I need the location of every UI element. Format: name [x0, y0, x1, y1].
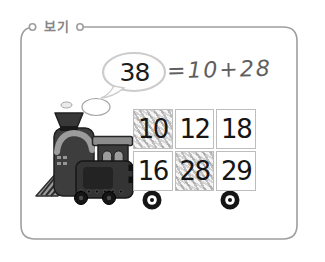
- example-frame-label: 보기: [39, 19, 75, 35]
- number-wagon-grid: 10 12 18 16 28 29: [133, 109, 256, 191]
- example-box: 보기 38 =10+28 10 12 18 16 28 29: [0, 0, 325, 262]
- steam-train-icon: [36, 113, 138, 205]
- frame-ring-right-icon: [77, 24, 83, 30]
- number-cell-28: 28: [175, 151, 215, 191]
- number-cell-10: 10: [133, 109, 173, 149]
- bubble-value: 38: [104, 58, 165, 87]
- number-cell-18: 18: [216, 109, 256, 149]
- number-cell-12: 12: [175, 109, 215, 149]
- frame-ring-left-icon: [29, 24, 35, 30]
- number-cell-29: 29: [216, 151, 256, 191]
- handwritten-equation: =10+28: [167, 55, 273, 86]
- wagon-wheels-icon: [143, 191, 240, 210]
- number-cell-16: 16: [133, 151, 173, 191]
